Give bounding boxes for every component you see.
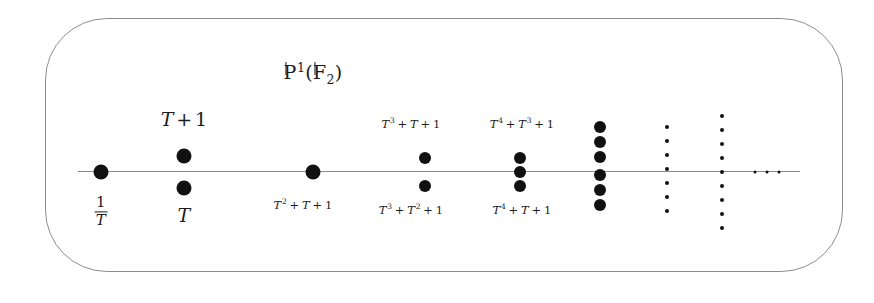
point-dot [594, 169, 606, 181]
point-dot [720, 226, 724, 230]
poly-plus: + [506, 203, 521, 217]
poly-term-T3: T3 [379, 203, 393, 217]
point-dot [720, 156, 724, 160]
label-one-over-T: 1 T [95, 195, 108, 228]
point-dot [594, 136, 606, 148]
figure-canvas: P1(F2) 1 T T+1 T T2+T+1 T3+T+1 T3+T2+1 T… [0, 0, 874, 303]
poly-term-T: T [161, 108, 174, 130]
point-dot [177, 181, 192, 196]
point-dot [766, 171, 769, 174]
fraction-numerator: 1 [96, 195, 106, 211]
poly-const: 1 [544, 203, 552, 217]
point-dot [594, 121, 606, 133]
projective-line-axis [78, 171, 800, 172]
poly-const: 1 [547, 117, 555, 131]
point-dot [665, 139, 669, 143]
poly-term-T3: T3 [518, 117, 532, 131]
point-dot [665, 153, 669, 157]
point-dot [665, 125, 669, 129]
blackboard-F-glyph: F [313, 61, 326, 83]
poly-term-T: T [178, 204, 191, 226]
point-dot [94, 165, 109, 180]
label-T4-T3-1: T4+T3+1 [490, 117, 555, 131]
poly-const: 1 [436, 203, 444, 217]
label-T: T [178, 204, 191, 226]
fraction-one-over-T: 1 T [95, 195, 108, 228]
poly-plus: + [392, 203, 407, 217]
blackboard-P-glyph: P [283, 61, 296, 83]
label-T3-T2-1: T3+T2+1 [379, 203, 444, 217]
poly-term-T3: T3 [381, 117, 395, 131]
point-dot [665, 209, 669, 213]
point-dot [514, 152, 526, 164]
point-dot [594, 151, 606, 163]
point-dot [754, 171, 757, 174]
poly-plus: + [174, 108, 195, 130]
poly-term-T: T [410, 117, 418, 131]
point-dot [665, 167, 669, 171]
label-T-plus-1: T+1 [161, 108, 208, 130]
point-dot [720, 142, 724, 146]
point-dot [177, 149, 192, 164]
point-dot [419, 180, 431, 192]
point-dot [665, 195, 669, 199]
point-dot [306, 165, 321, 180]
poly-plus: + [418, 117, 433, 131]
point-dot [665, 181, 669, 185]
poly-plus: + [532, 117, 547, 131]
point-dot [720, 212, 724, 216]
point-dot [720, 198, 724, 202]
point-dot [419, 152, 431, 164]
poly-plus: + [395, 117, 410, 131]
label-T3-T-1: T3+T+1 [381, 117, 440, 131]
poly-plus: + [503, 117, 518, 131]
poly-plus: + [421, 203, 436, 217]
fraction-denominator: T [96, 213, 106, 229]
poly-plus: + [287, 198, 302, 212]
point-dot [594, 184, 606, 196]
label-T2-T-1: T2+T+1 [273, 198, 332, 212]
poly-const: 1 [433, 117, 441, 131]
point-dot [594, 199, 606, 211]
poly-term-T2: T2 [407, 203, 421, 217]
title-paren-close: ) [335, 61, 343, 83]
point-dot [514, 180, 526, 192]
poly-term-T4: T4 [492, 203, 506, 217]
figure-title: P1(F2) [283, 61, 342, 83]
poly-plus: + [529, 203, 544, 217]
poly-term-T: T [521, 203, 529, 217]
label-T4-T-1: T4+T+1 [492, 203, 551, 217]
poly-const: 1 [195, 108, 207, 130]
poly-term-T4: T4 [490, 117, 504, 131]
title-paren-open: ( [305, 61, 313, 83]
point-dot [720, 128, 724, 132]
point-dot [720, 114, 724, 118]
point-dot [514, 166, 526, 178]
poly-plus: + [310, 198, 325, 212]
point-dot [720, 184, 724, 188]
title-exponent: 1 [297, 60, 306, 75]
poly-const: 1 [325, 198, 333, 212]
poly-term-T2: T2 [273, 198, 287, 212]
point-dot [778, 171, 781, 174]
poly-term-T: T [302, 198, 310, 212]
point-dot [720, 170, 724, 174]
